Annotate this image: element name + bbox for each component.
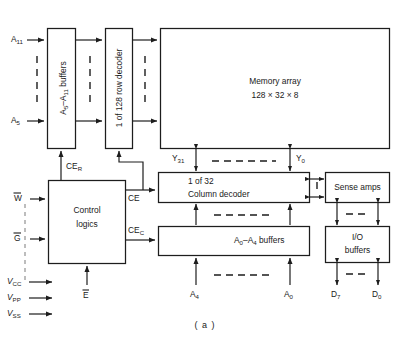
label-d7: D7 [331,289,341,300]
label-a5: A5 [11,115,21,126]
label-row-decoder: 1 of 128 row decoder [114,48,124,127]
label-chip-enable: E [83,290,89,300]
wire-ce-to-rowdec [119,151,143,190]
label-ce-c: CEC [128,225,145,236]
label-a0: A0 [284,289,294,300]
label-y31: Y31 [172,153,185,164]
label-vpp: VPP [7,292,21,303]
label-column-decoder-line2: Column decoder [188,189,250,199]
label-ce: CE [128,193,140,203]
label-output-enable: G [14,233,21,243]
label-io-buffers-line2: buffers [345,245,370,255]
label-a11: A11 [11,34,24,45]
label-row-buffers: A5–A11 buffers [58,61,69,114]
label-control-logic-line2: logics [76,219,97,229]
label-sense-amps: Sense amps [334,182,381,192]
label-vcc: VCC [7,276,22,287]
label-address-buffers: A0–A4 buffers [234,235,284,246]
label-a4: A4 [190,289,200,300]
memory-block-diagram: A11 A5 A5–A11 buffers 1 of 128 row decod… [0,0,410,342]
label-y0: Y0 [296,153,306,164]
label-ce-r: CER [66,161,83,172]
label-memory-array-line2: 128 × 32 × 8 [251,90,298,100]
figure-caption: ( a ) [194,320,215,330]
label-control-logic-line1: Control [74,205,101,215]
label-memory-array-line1: Memory array [249,76,301,86]
label-io-buffers-line1: I/O [352,232,364,242]
label-vss: VSS [7,308,21,319]
label-column-decoder-line1: 1 of 32 [188,176,214,186]
block-memory-array [161,29,390,149]
label-write-enable: W [14,193,22,203]
label-d0: D0 [372,289,382,300]
